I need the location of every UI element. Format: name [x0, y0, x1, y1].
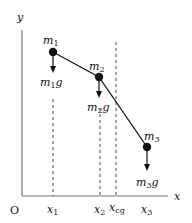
mass-2-label: m2: [89, 60, 105, 74]
xcg-tick-label: xcg: [109, 201, 125, 215]
force-2-label: m2g: [87, 101, 110, 115]
origin-label: O: [10, 204, 19, 217]
center-of-gravity-diagram: y x O m1 m2 m3 m1g m2g m3g x1 x2 xcg x3: [0, 0, 192, 223]
force-3-label: m3g: [136, 176, 159, 190]
x2-tick-label: x2: [94, 203, 105, 217]
force-1-label: m1g: [40, 76, 63, 90]
x1-tick-label: x1: [47, 203, 58, 217]
x3-tick-label: x3: [141, 203, 152, 217]
mass-3-label: m3: [144, 130, 160, 144]
mass-1-label: m1: [43, 34, 59, 48]
x-axis-label: x: [174, 190, 181, 203]
y-axis-label: y: [16, 11, 24, 24]
